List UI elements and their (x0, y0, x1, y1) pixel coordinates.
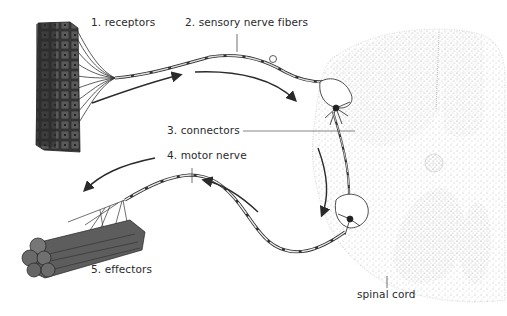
label-connectors: 3. connectors (167, 124, 240, 136)
sensory-nerve-illustration (115, 34, 325, 82)
spinal-cord-illustration (312, 29, 505, 302)
reflex-arc-diagram: 1. receptors 2. sensory nerve fibers 3. … (0, 0, 507, 316)
label-motor-nerve: 4. motor nerve (167, 149, 247, 161)
label-effectors: 5. effectors (91, 263, 152, 275)
label-receptors: 1. receptors (91, 16, 155, 28)
flow-arrows (85, 72, 327, 215)
receptors-illustration (36, 22, 115, 152)
label-sensory-nerve-fibers: 2. sensory nerve fibers (185, 16, 308, 28)
